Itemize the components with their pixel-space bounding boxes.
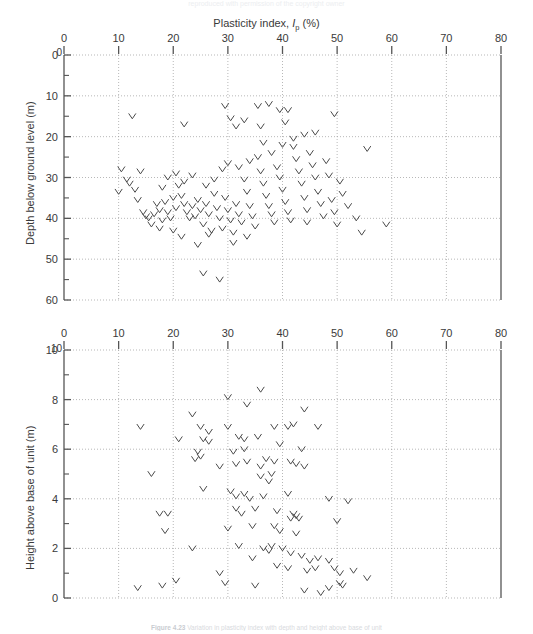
caption-text: Variation in plasticity index with depth… bbox=[187, 624, 382, 631]
data-point bbox=[315, 424, 322, 429]
data-point bbox=[205, 232, 212, 237]
data-point bbox=[241, 437, 248, 442]
height-axis-title: Height above base of unit (m) bbox=[24, 426, 36, 570]
data-point bbox=[181, 202, 188, 207]
height-scatter-svg: 024681001020304050607080 bbox=[0, 320, 533, 620]
data-point bbox=[306, 151, 313, 156]
data-point bbox=[271, 524, 278, 529]
data-point bbox=[173, 171, 180, 176]
data-point bbox=[364, 146, 371, 151]
data-point bbox=[304, 220, 311, 225]
data-point bbox=[241, 491, 248, 496]
data-point bbox=[230, 449, 237, 454]
data-point bbox=[222, 581, 229, 586]
data-point bbox=[249, 524, 256, 529]
svg-text:10: 10 bbox=[46, 90, 58, 102]
data-point bbox=[315, 189, 322, 194]
data-point bbox=[219, 167, 226, 172]
svg-text:2: 2 bbox=[52, 542, 58, 554]
data-point bbox=[257, 169, 264, 174]
data-point bbox=[246, 159, 253, 164]
svg-text:30: 30 bbox=[46, 172, 58, 184]
data-point bbox=[189, 204, 196, 209]
data-point bbox=[175, 183, 182, 188]
data-point bbox=[279, 142, 286, 147]
data-point bbox=[244, 234, 251, 239]
data-point bbox=[290, 144, 297, 149]
data-point bbox=[194, 242, 201, 247]
data-point bbox=[233, 124, 240, 129]
data-point bbox=[260, 494, 267, 499]
data-point bbox=[197, 424, 204, 429]
data-point bbox=[282, 200, 289, 205]
data-point bbox=[265, 102, 272, 107]
data-point bbox=[224, 526, 231, 531]
svg-text:20: 20 bbox=[167, 32, 179, 44]
data-point bbox=[293, 157, 300, 162]
data-point bbox=[268, 212, 275, 217]
data-point bbox=[257, 464, 264, 469]
svg-text:70: 70 bbox=[440, 32, 452, 44]
data-point bbox=[306, 558, 313, 563]
data-point bbox=[339, 191, 346, 196]
data-point bbox=[287, 516, 294, 521]
data-point bbox=[205, 439, 212, 444]
data-point bbox=[326, 558, 333, 563]
data-point bbox=[364, 576, 371, 581]
data-point bbox=[287, 218, 294, 223]
data-point bbox=[173, 206, 180, 211]
data-point bbox=[189, 412, 196, 417]
data-point bbox=[276, 442, 283, 447]
data-point bbox=[222, 104, 229, 109]
depth-scatter-svg: 010203040506001020304050607080 bbox=[0, 0, 533, 320]
data-point bbox=[200, 486, 207, 491]
data-point bbox=[164, 175, 171, 180]
data-point bbox=[134, 586, 141, 591]
data-point bbox=[298, 181, 305, 186]
data-point bbox=[312, 566, 319, 571]
data-point bbox=[285, 108, 292, 113]
svg-text:20: 20 bbox=[167, 327, 179, 339]
data-point bbox=[203, 202, 210, 207]
data-point bbox=[194, 449, 201, 454]
data-point bbox=[336, 571, 343, 576]
data-point bbox=[211, 191, 218, 196]
data-point bbox=[156, 511, 163, 516]
data-point bbox=[184, 210, 191, 215]
data-point bbox=[233, 506, 240, 511]
data-point bbox=[189, 173, 196, 178]
data-point bbox=[227, 489, 234, 494]
data-point bbox=[197, 208, 204, 213]
caption-number: Figure 4.23 bbox=[151, 624, 185, 631]
data-point bbox=[285, 210, 292, 215]
data-point bbox=[317, 591, 324, 596]
data-point bbox=[164, 210, 171, 215]
data-point bbox=[298, 553, 305, 558]
data-point bbox=[323, 159, 330, 164]
data-point bbox=[255, 155, 262, 160]
data-point bbox=[162, 529, 169, 534]
data-point bbox=[178, 234, 185, 239]
svg-text:50: 50 bbox=[46, 253, 58, 265]
data-point bbox=[238, 511, 245, 516]
data-point bbox=[331, 112, 338, 117]
data-point bbox=[312, 130, 319, 135]
data-point bbox=[287, 551, 294, 556]
data-point bbox=[200, 271, 207, 276]
data-point bbox=[312, 175, 319, 180]
data-point bbox=[282, 120, 289, 125]
figure-scatter-plots: reproduced with permission of the copyri… bbox=[0, 0, 533, 634]
data-point bbox=[137, 424, 144, 429]
data-point bbox=[304, 208, 311, 213]
data-point bbox=[263, 193, 270, 198]
height-corner-label: 10 bbox=[34, 343, 62, 354]
data-point bbox=[301, 407, 308, 412]
data-point bbox=[271, 220, 278, 225]
data-point bbox=[315, 556, 322, 561]
data-point bbox=[252, 583, 259, 588]
data-point bbox=[257, 474, 264, 479]
svg-text:20: 20 bbox=[46, 131, 58, 143]
data-point bbox=[274, 165, 281, 170]
data-point bbox=[205, 212, 212, 217]
data-point bbox=[238, 220, 245, 225]
